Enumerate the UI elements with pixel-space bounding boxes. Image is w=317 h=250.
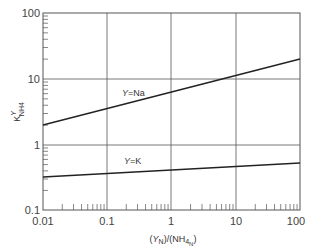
y-tick-label: 1 — [34, 139, 40, 151]
y-axis-title: KYNH4 — [10, 102, 25, 122]
annotation-na: Y=Na — [122, 88, 145, 98]
x-tick-label: 0.01 — [32, 215, 53, 227]
chart: Y=Na Y=K 100 10 1 0.1 0.01 0.1 1 10 100 … — [0, 0, 317, 250]
series-line-k — [43, 163, 300, 177]
annotation-k: Y=K — [124, 156, 141, 166]
plot-frame — [43, 13, 300, 210]
y-minor-ticks — [43, 16, 48, 190]
grid — [43, 13, 300, 210]
x-tick-label: 100 — [287, 215, 305, 227]
x-tick-label: 1 — [168, 215, 174, 227]
x-tick-label: 0.1 — [99, 215, 114, 227]
y-tick-label: 10 — [28, 73, 40, 85]
x-tick-label: 10 — [230, 215, 242, 227]
x-minor-ticks — [62, 204, 297, 210]
y-tick-label: 100 — [22, 7, 40, 19]
series-line-na — [43, 59, 300, 125]
svg-text:KYNH4: KYNH4 — [10, 102, 25, 122]
x-axis-title: (YN)/(NH4N) — [150, 234, 197, 247]
